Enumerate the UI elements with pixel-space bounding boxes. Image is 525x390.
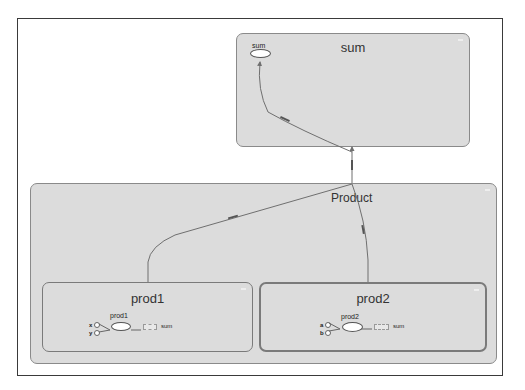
input-b-port[interactable] xyxy=(325,330,331,336)
expand-icon[interactable] xyxy=(241,288,246,290)
sum-node-label: sum xyxy=(252,42,265,49)
prod2-op-node[interactable] xyxy=(342,322,363,332)
prod2-output-label: sum xyxy=(393,323,404,329)
input-x-port[interactable] xyxy=(94,322,100,328)
expand-icon[interactable] xyxy=(485,189,490,191)
group-prod1[interactable]: prod1 prod1 x y sum xyxy=(42,282,253,352)
expand-icon[interactable] xyxy=(474,289,479,291)
prod1-node-label: prod1 xyxy=(110,312,128,319)
expand-icon[interactable] xyxy=(458,39,463,41)
group-prod1-title: prod1 xyxy=(43,291,252,306)
group-prod2[interactable]: prod2 prod2 a b sum xyxy=(259,282,487,352)
input-b-label: b xyxy=(320,330,324,336)
group-sum-title: sum xyxy=(237,40,469,55)
prod1-op-node[interactable] xyxy=(111,322,131,331)
group-product-title: Product xyxy=(331,191,381,205)
prod1-output-label: sum xyxy=(161,323,172,329)
prod2-node-label: prod2 xyxy=(341,313,359,320)
group-prod2-title: prod2 xyxy=(261,291,485,306)
prod1-output-placeholder xyxy=(143,324,157,330)
input-a-label: a xyxy=(320,322,323,328)
input-y-port[interactable] xyxy=(94,330,100,336)
input-a-port[interactable] xyxy=(325,322,331,328)
sum-op-node[interactable] xyxy=(250,49,271,58)
input-x-label: x xyxy=(89,322,92,328)
prod2-output-placeholder xyxy=(374,324,389,330)
group-sum[interactable]: sum sum xyxy=(236,33,470,147)
input-y-label: y xyxy=(89,330,92,336)
